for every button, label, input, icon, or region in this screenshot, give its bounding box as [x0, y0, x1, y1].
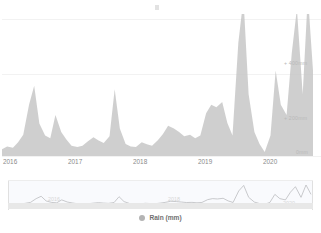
x-tick-2016: 2016 [3, 158, 17, 165]
legend: Rain (mm) [0, 214, 321, 221]
chart-container: + 400mm + 200mm 0mm 2016 2017 2018 2019 … [0, 0, 321, 233]
x-tick-2018: 2018 [133, 158, 147, 165]
y-axis-label-0mm: 0mm [296, 149, 308, 155]
rain-area-series [0, 14, 321, 158]
navigator-year-2016: 2016 [48, 196, 60, 202]
navigator-year-2018: 2018 [168, 196, 180, 202]
x-tick-2019: 2019 [198, 158, 212, 165]
top-artifact-mark [155, 5, 159, 10]
y-axis-label-200mm: + 200mm [284, 115, 307, 121]
x-tick-2020: 2020 [263, 158, 277, 165]
legend-marker-rain [139, 215, 145, 221]
x-axis: 2016 2017 2018 2019 2020 [0, 158, 321, 172]
navigator-track[interactable] [8, 203, 313, 209]
x-tick-2017: 2017 [68, 158, 82, 165]
y-axis-label-400mm: + 400mm [284, 60, 307, 66]
legend-item-rain[interactable]: Rain (mm) [149, 214, 181, 221]
main-chart-plot-area: + 400mm + 200mm 0mm [0, 14, 321, 158]
